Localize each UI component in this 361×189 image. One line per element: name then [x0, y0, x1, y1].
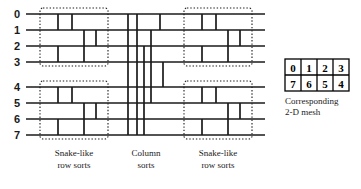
- stage-right-label-line2: row sorts: [201, 160, 235, 170]
- mesh-cell-r0c1: 1: [306, 62, 312, 74]
- comparator-group-right-bottom: [202, 87, 240, 135]
- wire-group: [26, 14, 265, 135]
- row-label-7: 7: [14, 129, 20, 141]
- stage-left-label-line2: row sorts: [57, 160, 91, 170]
- stage-middle-label-line1: Column: [131, 148, 161, 158]
- stage-box-snake-bottom-right: [184, 81, 252, 139]
- stage-box-snake-bottom-left: [40, 81, 108, 139]
- comparator-group-left-bottom: [58, 87, 96, 135]
- mesh-caption-line1: Corresponding: [285, 96, 339, 106]
- row-label-group: 0 1 2 3 4 5 6 7: [14, 8, 21, 141]
- row-label-3: 3: [14, 56, 20, 68]
- sorting-network-figure: 0 1 2 3 4 5 6 7: [0, 0, 361, 189]
- row-label-0: 0: [14, 8, 20, 20]
- stage-right-label-line1: Snake-like: [199, 148, 238, 158]
- row-label-2: 2: [14, 40, 20, 52]
- stage-middle-label-line2: sorts: [137, 160, 155, 170]
- mesh-cell-r0c2: 2: [322, 62, 328, 74]
- stage-box-snake-top-right: [184, 8, 252, 66]
- stage-box-snake-top-left: [40, 8, 108, 66]
- stage-left-label-line1: Snake-like: [55, 148, 94, 158]
- row-label-1: 1: [14, 24, 20, 36]
- mesh-cell-r0c3: 3: [338, 62, 344, 74]
- row-label-5: 5: [14, 97, 20, 109]
- mesh-caption-line2: 2-D mesh: [285, 107, 321, 117]
- figure-canvas: 0 1 2 3 4 5 6 7: [0, 0, 361, 189]
- mesh-cell-r0c0: 0: [290, 62, 296, 74]
- mesh-cell-r1c1: 6: [306, 78, 312, 90]
- comparator-group-right-top: [202, 14, 240, 62]
- mesh-cell-r1c3: 4: [338, 78, 344, 90]
- stage-caption-group: Snake-like row sorts Column sorts Snake-…: [55, 148, 238, 170]
- mesh-cell-r1c0: 7: [290, 78, 296, 90]
- row-label-6: 6: [14, 113, 20, 125]
- mesh-table: 0 1 2 3 7 6 5 4: [285, 59, 349, 91]
- comparator-group-column: [128, 14, 163, 135]
- mesh-cell-r1c2: 5: [322, 78, 328, 90]
- row-label-4: 4: [14, 81, 21, 93]
- comparator-group-left-top: [58, 14, 96, 62]
- mesh-caption: Corresponding 2-D mesh: [285, 96, 339, 117]
